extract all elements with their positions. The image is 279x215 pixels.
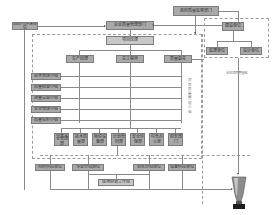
connector (149, 155, 150, 164)
connector (38, 26, 105, 27)
quality-manager-box: 质量副总 (164, 55, 192, 63)
connector (61, 87, 181, 88)
connector (61, 109, 181, 110)
supervision-box: 监理单位 (206, 47, 228, 55)
connector (50, 171, 51, 189)
side-label: 项目质量管理小组 (187, 78, 192, 114)
arrow-icon (152, 24, 154, 26)
team-b-box: 劳务分包单位 (133, 164, 165, 171)
department-box: 物资设备部 (92, 133, 107, 146)
connector (40, 155, 250, 157)
department-box: 技术质量部 (73, 133, 88, 146)
production-manager-box: 生产经理 (66, 55, 94, 63)
connector (238, 58, 239, 174)
connector (182, 155, 183, 164)
connector (181, 63, 182, 123)
left-group-box: 测量试验小组 (31, 95, 61, 102)
connector (88, 174, 149, 175)
connector (149, 171, 150, 189)
connector (130, 123, 131, 128)
department-box: 质量安全管理部 (54, 133, 69, 146)
department-box: 安全环保部 (130, 133, 145, 146)
left-unit-box: 消防与环保单位 (12, 22, 38, 30)
connector (233, 31, 234, 41)
company-hq-box: 企业质量管理部门 (106, 21, 154, 30)
connector (61, 120, 181, 121)
left-group-box: 技术管理小组 (31, 73, 61, 80)
department-box: 计划合同部 (111, 133, 126, 146)
equipment-box: 设备供应单位 (168, 164, 196, 171)
connector (61, 128, 181, 129)
department-box: 综合办公室 (149, 133, 164, 146)
owner-group-label: 业主项目管理组 (226, 70, 247, 75)
connector (217, 41, 251, 42)
connector (182, 171, 183, 189)
connector (61, 76, 181, 77)
connector (24, 30, 25, 190)
connector (117, 146, 118, 155)
project-manager-box: 项目经理 (106, 36, 154, 45)
connector (79, 63, 80, 123)
connector (202, 34, 204, 204)
coordination-box: 现场协调工作组 (98, 179, 134, 186)
connector (61, 98, 181, 99)
left-group-box: 质量资料小组 (31, 117, 61, 124)
technical-manager-box: 总工程师 (116, 55, 144, 63)
trophy-icon (230, 175, 248, 211)
authority-box: 政府质量监督部门 (173, 6, 219, 16)
connector (88, 155, 89, 164)
department-box: 财务部门 (168, 133, 183, 146)
connector (130, 63, 131, 123)
connector (219, 11, 239, 12)
team-a-box: 专业分包单位 (72, 164, 104, 171)
connector (50, 155, 51, 164)
left-group-box: 质量检查小组 (31, 84, 61, 91)
design-box: 设计单位 (240, 47, 262, 55)
left-group-box: 安全管理小组 (31, 106, 61, 113)
connector (50, 189, 232, 190)
materials-box: 材料供应单位 (35, 164, 65, 171)
